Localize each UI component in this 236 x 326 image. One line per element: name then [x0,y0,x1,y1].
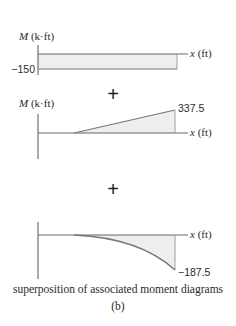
superposition-diagram: M (k·ft) x (ft) −150 + M (k·ft) x (ft) 3… [0,0,236,326]
moment-area [74,235,175,270]
diagram-constant-moment: M (k·ft) x (ft) −150 [11,30,212,75]
value-label: 337.5 [178,102,204,114]
plus-sign: + [107,178,119,200]
x-axis-label: x (ft) [189,228,212,241]
moment-area [38,54,177,69]
x-axis-label: x (ft) [189,126,212,139]
diagram-linear-moment: M (k·ft) x (ft) 337.5 [18,97,212,159]
diagram-parabolic-moment: x (ft) −187.5 [38,222,212,279]
y-axis-label: M (k·ft) [18,97,54,110]
plus-sign: + [107,83,119,105]
value-label: −150 [11,63,35,75]
figure-caption: superposition of associated moment diagr… [0,283,236,295]
figure-sublabel: (b) [0,300,236,312]
value-label: −187.5 [178,266,211,278]
y-axis-label: M (k·ft) [18,30,54,43]
x-axis-label: x (ft) [189,47,212,60]
